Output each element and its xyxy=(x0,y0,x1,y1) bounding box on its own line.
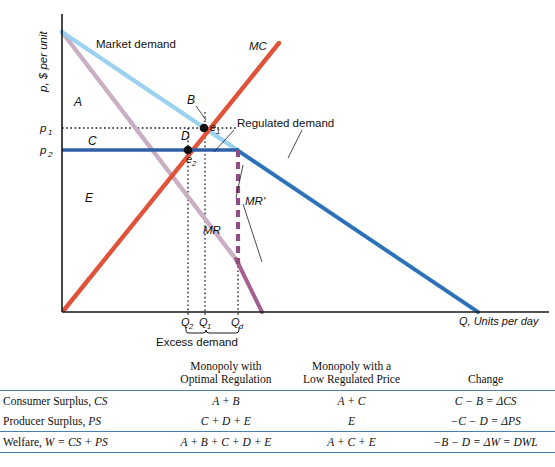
y-tick-label-p1: p 1 xyxy=(39,122,52,137)
mr-prime-label: MR' xyxy=(245,195,266,207)
mr-prime-leader-line xyxy=(243,204,262,262)
p1-sub: 1 xyxy=(48,128,52,137)
figure-page: p, $ per unit Q, Units per day Market de… xyxy=(0,0,555,467)
p2-base: p xyxy=(39,144,47,156)
area-label-d: D xyxy=(181,129,190,143)
cell-cs-optimal: A + B xyxy=(165,391,287,412)
cell-w-low-price: A + C + E xyxy=(287,432,417,453)
mr-curve-tail xyxy=(236,259,262,312)
table-body: Consumer Surplus, CS A + B A + C C − B =… xyxy=(0,391,555,453)
regulated-demand-label: Regulated demand xyxy=(237,117,334,129)
table: Monopoly with Optimal Regulation Monopol… xyxy=(0,356,555,453)
x-axis-label: Q, Units per day xyxy=(459,315,540,327)
col-header-optimal-regulation: Monopoly with Optimal Regulation xyxy=(165,356,287,391)
excess-demand-label: Excess demand xyxy=(156,336,238,348)
cell-w-change: −B − D = ΔW = DWL xyxy=(416,432,555,453)
regulated-demand-slope xyxy=(237,150,478,312)
col-header-blank xyxy=(0,356,165,391)
col-header-optimal-line2: Optimal Regulation xyxy=(167,373,285,386)
row-label-consumer-surplus: Consumer Surplus, CS xyxy=(0,391,165,412)
market-demand-label: Market demand xyxy=(96,38,176,50)
p2-sub: 2 xyxy=(47,150,53,159)
area-label-b: B xyxy=(187,93,195,107)
p1-base: p xyxy=(39,122,47,134)
table-head: Monopoly with Optimal Regulation Monopol… xyxy=(0,356,555,391)
cell-w-optimal: A + B + C + D + E xyxy=(165,432,287,453)
economics-diagram: p, $ per unit Q, Units per day Market de… xyxy=(0,0,555,352)
cell-cs-low-price: A + C xyxy=(287,391,417,412)
x-tick-label-qd: Q d xyxy=(231,316,244,331)
row-label-producer-surplus: Producer Surplus, PS xyxy=(0,411,165,432)
y-tick-label-p2: p 2 xyxy=(39,144,53,159)
table-row-consumer-surplus: Consumer Surplus, CS A + B A + C C − B =… xyxy=(0,391,555,412)
q1-sub: 1 xyxy=(207,322,211,331)
table-row-welfare: Welfare, W = CS + PS A + B + C + D + E A… xyxy=(0,432,555,453)
table-row-producer-surplus: Producer Surplus, PS C + D + E E −C − D … xyxy=(0,411,555,432)
e2-sub: 2 xyxy=(191,159,197,168)
surplus-comparison-table: Monopoly with Optimal Regulation Monopol… xyxy=(0,356,555,453)
row-label-ps-italic: PS xyxy=(88,415,101,427)
row-label-ps-plain: Producer Surplus, xyxy=(3,415,88,427)
equilibrium-label-e2: e 2 xyxy=(186,153,197,168)
col-header-low-line2: Low Regulated Price xyxy=(289,373,415,386)
area-label-e: E xyxy=(85,191,94,205)
row-label-cs-italic: CS xyxy=(94,395,107,407)
equilibrium-point-e1 xyxy=(200,124,209,133)
col-header-change-line2: Change xyxy=(418,373,553,386)
cell-cs-change: C − B = ΔCS xyxy=(416,391,555,412)
row-label-w-italic: W = CS + PS xyxy=(45,436,108,448)
cell-ps-low-price: E xyxy=(287,411,417,432)
marginal-cost-curve xyxy=(64,43,279,310)
cell-ps-change: −C − D = ΔPS xyxy=(416,411,555,432)
mr-prime-leader-line-upper xyxy=(236,165,243,198)
regulated-demand-leader-2 xyxy=(288,130,302,158)
x-tick-label-q2: Q 2 xyxy=(181,316,194,331)
chart-svg: p, $ per unit Q, Units per day Market de… xyxy=(0,0,555,352)
y-axis-label: p, $ per unit xyxy=(37,30,49,93)
col-header-change: Change xyxy=(416,356,555,391)
x-tick-label-q1: Q 1 xyxy=(199,316,211,331)
row-label-welfare: Welfare, W = CS + PS xyxy=(0,432,165,453)
row-label-w-plain: Welfare, xyxy=(3,436,45,448)
col-header-optimal-line1: Monopoly with xyxy=(167,360,285,373)
e1-sub: 1 xyxy=(216,127,220,136)
q2-sub: 2 xyxy=(188,322,194,331)
row-label-cs-plain: Consumer Surplus, xyxy=(3,395,94,407)
area-label-a: A xyxy=(73,95,82,109)
mr-label: MR xyxy=(203,224,221,236)
mc-label: MC xyxy=(249,40,268,52)
qd-sub: d xyxy=(239,322,244,331)
col-header-low-line1: Monopoly with a xyxy=(289,360,415,373)
table-header-row: Monopoly with Optimal Regulation Monopol… xyxy=(0,356,555,391)
col-header-low-regulated-price: Monopoly with a Low Regulated Price xyxy=(287,356,417,391)
area-label-c: C xyxy=(88,134,97,148)
cell-ps-optimal: C + D + E xyxy=(165,411,287,432)
